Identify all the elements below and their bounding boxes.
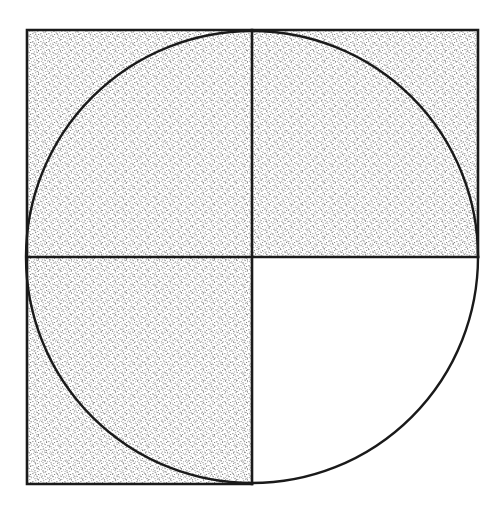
quadrant-bottom-left (27, 257, 252, 484)
quadrant-top-right (252, 30, 478, 257)
quadrant-top-left (27, 30, 252, 257)
geometry-figure-svg (0, 0, 496, 509)
quadrant-bottom-right (252, 257, 478, 484)
geometry-figure-container: Square with inscribed circle, three quad… (0, 0, 496, 509)
